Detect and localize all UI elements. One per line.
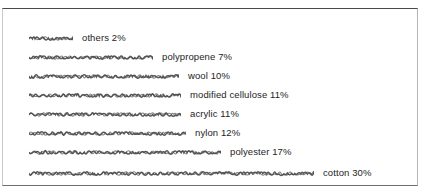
bar-label-acrylic: acrylic 11% bbox=[190, 109, 239, 119]
bar-nylon bbox=[29, 128, 186, 139]
bar-label-polyester: polyester 17% bbox=[230, 147, 292, 157]
bar-cotton bbox=[29, 168, 314, 179]
bar-row: others 2% bbox=[29, 31, 126, 45]
bar-wool bbox=[29, 71, 179, 82]
bar-label-modified-cellulose: modified cellulose 11% bbox=[190, 90, 289, 100]
bar-acrylic bbox=[29, 109, 181, 120]
bar-row: polypropene 7% bbox=[29, 50, 232, 64]
bar-row: acrylic 11% bbox=[29, 107, 239, 121]
bar-row: cotton 30% bbox=[29, 166, 372, 180]
bar-row: wool 10% bbox=[29, 69, 230, 83]
bar-row: modified cellulose 11% bbox=[29, 88, 289, 102]
bar-label-polypropene: polypropene 7% bbox=[162, 52, 232, 62]
bar-polypropene bbox=[29, 52, 153, 63]
bar-label-cotton: cotton 30% bbox=[323, 168, 372, 178]
bar-modified-cellulose bbox=[29, 90, 181, 101]
chart-frame: others 2%polypropene 7%wool 10%modified … bbox=[2, 8, 418, 186]
bar-row: polyester 17% bbox=[29, 145, 292, 159]
bar-chart: others 2%polypropene 7%wool 10%modified … bbox=[3, 9, 417, 185]
bar-polyester bbox=[29, 147, 221, 158]
bar-label-wool: wool 10% bbox=[188, 71, 230, 81]
bar-label-others: others 2% bbox=[82, 33, 126, 43]
bar-label-nylon: nylon 12% bbox=[195, 128, 240, 138]
bar-others bbox=[29, 33, 73, 44]
bar-row: nylon 12% bbox=[29, 126, 240, 140]
